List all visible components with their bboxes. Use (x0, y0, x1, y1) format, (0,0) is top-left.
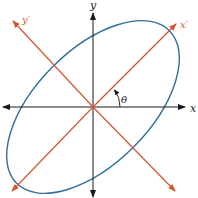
theta-label: θ (121, 94, 127, 105)
x-prime-axis-negative (12, 107, 93, 191)
ellipse (0, 0, 198, 198)
y-label: y (89, 0, 97, 12)
y-prime-axis-negative (93, 107, 175, 191)
x-prime-axis (93, 24, 176, 107)
x-prime-label: x′ (180, 19, 189, 30)
y-prime-label: y′ (21, 14, 31, 25)
rotated-axes-diagram: x y x′ y′ θ (0, 0, 198, 198)
x-label: x (190, 102, 197, 115)
y-prime-axis (13, 21, 93, 107)
angle-arc (115, 90, 121, 107)
